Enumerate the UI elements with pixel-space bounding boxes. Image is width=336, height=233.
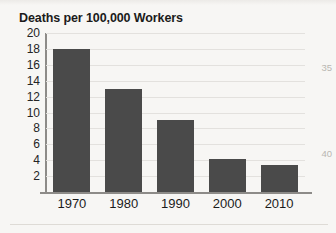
y-axis-tick-labels: 2018161412108642 [8, 33, 40, 192]
y-axis-tick-label: 10 [14, 106, 40, 120]
y-axis-tick-label: 2 [14, 169, 40, 183]
y-axis-tick-label: 14 [14, 74, 40, 88]
y-axis-tick-label: 6 [14, 137, 40, 151]
x-axis-tick-label: 2000 [213, 196, 242, 211]
bar [209, 159, 246, 192]
x-axis-tick-label: 1990 [161, 196, 190, 211]
y-axis-tick-label: 4 [14, 153, 40, 167]
x-axis-line [40, 192, 312, 194]
gridline [46, 33, 305, 34]
y-axis-tick-label: 20 [14, 26, 40, 40]
bar [105, 89, 142, 192]
plot-area [46, 33, 305, 192]
x-axis-tick-label: 2010 [265, 196, 294, 211]
x-axis-tick-label: 1980 [109, 196, 138, 211]
y-axis-tick-label: 8 [14, 121, 40, 135]
bar [261, 165, 298, 192]
bar [53, 49, 90, 192]
bar-chart-figure: Deaths per 100,000 Workers 2018161412108… [0, 0, 336, 233]
y-axis-tick-label: 16 [14, 58, 40, 72]
x-axis-tick-label: 1970 [57, 196, 86, 211]
y-axis-tick-label: 18 [14, 42, 40, 56]
bar [157, 120, 194, 192]
page-bottom-rule [10, 224, 328, 225]
y-axis-tick-label: 12 [14, 90, 40, 104]
margin-page-number: 40 [321, 148, 332, 159]
chart-title: Deaths per 100,000 Workers [19, 11, 183, 25]
margin-page-number: 35 [321, 62, 332, 73]
